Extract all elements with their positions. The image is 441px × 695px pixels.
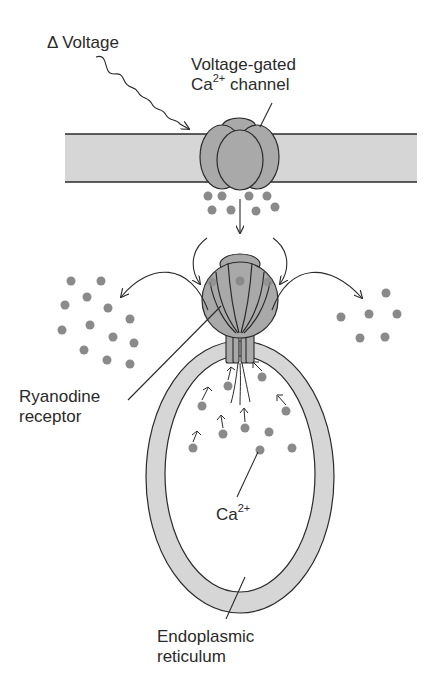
voltage-text: Voltage — [62, 33, 119, 52]
channel-label-leader — [260, 103, 272, 127]
ions-below-channel — [204, 192, 280, 216]
channel-label: Voltage-gated Ca2+ channel — [191, 55, 296, 95]
channel-label-line1: Voltage-gated — [191, 55, 296, 75]
arrow-into-receptor-right — [273, 238, 287, 284]
voltage-label: Δ Voltage — [47, 33, 119, 53]
ryanodine-label-line1: Ryanodine — [19, 387, 100, 407]
er-label-line2: reticulum — [157, 647, 254, 667]
arrow-release-left — [121, 272, 208, 310]
diagram-canvas — [0, 0, 441, 695]
arrow-release-right — [272, 272, 362, 310]
ryanodine-receptor-icon — [202, 254, 278, 338]
arrow-into-receptor-left — [193, 238, 207, 284]
er-label: Endoplasmic reticulum — [157, 627, 254, 667]
ions-right-cytosol — [337, 289, 402, 343]
er-label-line1: Endoplasmic — [157, 627, 254, 647]
voltage-gated-channel-icon — [200, 118, 279, 190]
channel-label-line2: Ca2+ channel — [191, 75, 296, 95]
ryanodine-label: Ryanodine receptor — [19, 387, 100, 427]
delta-symbol: Δ — [47, 33, 57, 52]
voltage-signal-icon — [96, 56, 189, 129]
ryanodine-label-line2: receptor — [19, 407, 100, 427]
calcium-label: Ca2+ — [216, 505, 250, 525]
